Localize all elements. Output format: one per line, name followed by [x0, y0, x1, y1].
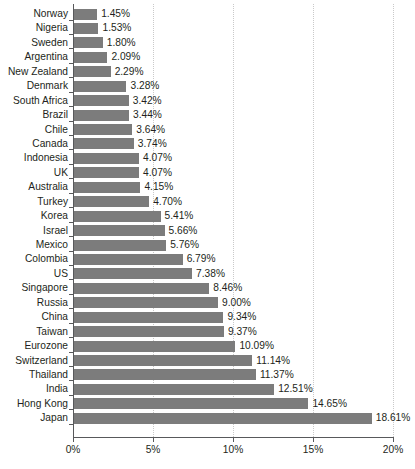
x-tick-label: 10% — [203, 443, 263, 456]
y-tick-mark — [69, 294, 73, 295]
y-tick-mark — [69, 106, 73, 107]
y-tick-mark — [69, 236, 73, 237]
y-tick-mark — [69, 279, 73, 280]
y-tick-mark — [69, 77, 73, 78]
bar-value-label: 18.61% — [376, 412, 411, 424]
bar — [74, 355, 252, 366]
category-label: Denmark — [0, 80, 68, 92]
category-label: New Zealand — [0, 66, 68, 78]
y-tick-mark — [69, 92, 73, 93]
x-tick-label: 20% — [363, 443, 415, 456]
category-label: Hong Kong — [0, 398, 68, 410]
bar-row: Indonesia4.07% — [0, 152, 408, 166]
bar — [74, 153, 139, 164]
category-label: Sweden — [0, 37, 68, 49]
bar-row: Russia9.00% — [0, 297, 408, 311]
category-label: Japan — [0, 412, 68, 424]
bar-value-label: 3.44% — [133, 109, 162, 121]
bar — [74, 268, 192, 279]
category-label: Chile — [0, 124, 68, 136]
y-tick-mark — [69, 337, 73, 338]
x-tick-mark — [73, 437, 74, 442]
bar-row: UK4.07% — [0, 167, 408, 181]
bar — [74, 240, 166, 251]
bar-value-label: 8.46% — [213, 282, 242, 294]
category-label: Indonesia — [0, 152, 68, 164]
x-tick-mark — [393, 437, 394, 442]
bar-row: Australia4.15% — [0, 181, 408, 195]
bar-row: Japan18.61% — [0, 412, 408, 426]
y-tick-mark — [69, 34, 73, 35]
y-tick-mark — [69, 178, 73, 179]
bar-value-label: 11.14% — [256, 355, 290, 367]
bar-value-label: 2.29% — [115, 66, 144, 78]
y-tick-mark — [69, 222, 73, 223]
bar-value-label: 3.28% — [130, 80, 159, 92]
category-label: Norway — [0, 8, 68, 20]
bar — [74, 283, 209, 294]
bar-row: Nigeria1.53% — [0, 22, 408, 36]
category-label: Korea — [0, 210, 68, 222]
bar — [74, 369, 256, 380]
y-tick-mark — [69, 308, 73, 309]
bar-value-label: 5.76% — [170, 239, 199, 251]
bar-row: Korea5.41% — [0, 210, 408, 224]
y-tick-mark — [69, 63, 73, 64]
category-label: Switzerland — [0, 355, 68, 367]
bar-value-label: 3.74% — [138, 138, 167, 150]
bar — [74, 398, 308, 409]
y-tick-mark — [69, 149, 73, 150]
y-tick-mark — [69, 121, 73, 122]
bar-row: Sweden1.80% — [0, 37, 408, 51]
bar-value-label: 5.66% — [169, 225, 198, 237]
bar-value-label: 4.07% — [143, 167, 172, 179]
bar-value-label: 5.41% — [165, 210, 194, 222]
x-tick-label: 5% — [123, 443, 183, 456]
bar — [74, 182, 140, 193]
bar-value-label: 1.53% — [102, 22, 131, 34]
bar-row: South Africa3.42% — [0, 95, 408, 109]
bar — [74, 95, 129, 106]
bar-value-label: 3.64% — [136, 124, 165, 136]
category-label: China — [0, 311, 68, 323]
bar-value-label: 4.07% — [143, 152, 172, 164]
bar-rows: Norway1.45%Nigeria1.53%Sweden1.80%Argent… — [0, 8, 408, 427]
bar-value-label: 12.51% — [278, 383, 313, 395]
bar — [74, 124, 132, 135]
category-label: Nigeria — [0, 22, 68, 34]
y-tick-mark — [69, 207, 73, 208]
bar — [74, 297, 218, 308]
y-tick-mark — [69, 380, 73, 381]
bar-value-label: 1.45% — [101, 8, 130, 20]
bar — [74, 196, 149, 207]
bar — [74, 413, 372, 424]
y-tick-mark — [69, 164, 73, 165]
bar-value-label: 10.09% — [239, 340, 274, 352]
bar-value-label: 4.70% — [153, 196, 182, 208]
bar — [74, 384, 274, 395]
x-tick-mark — [233, 437, 234, 442]
bar-row: Brazil3.44% — [0, 109, 408, 123]
category-label: Argentina — [0, 51, 68, 63]
y-tick-mark — [69, 48, 73, 49]
y-tick-mark — [69, 395, 73, 396]
category-label: Australia — [0, 181, 68, 193]
bar-row: Eurozone10.09% — [0, 340, 408, 354]
bar-value-label: 9.37% — [228, 326, 257, 338]
category-label: Eurozone — [0, 340, 68, 352]
bar-value-label: 6.79% — [187, 253, 216, 265]
bar — [74, 254, 183, 265]
bar-value-label: 4.15% — [144, 181, 173, 193]
bar-row: China9.34% — [0, 311, 408, 325]
bar-value-label: 1.80% — [107, 37, 136, 49]
y-tick-mark — [69, 352, 73, 353]
y-tick-mark — [69, 366, 73, 367]
y-tick-mark — [69, 265, 73, 266]
bar — [74, 211, 161, 222]
bar-row: US7.38% — [0, 268, 408, 282]
bar-value-label: 14.65% — [312, 398, 347, 410]
category-label: US — [0, 268, 68, 280]
bar-row: Mexico5.76% — [0, 239, 408, 253]
bar-row: India12.51% — [0, 383, 408, 397]
